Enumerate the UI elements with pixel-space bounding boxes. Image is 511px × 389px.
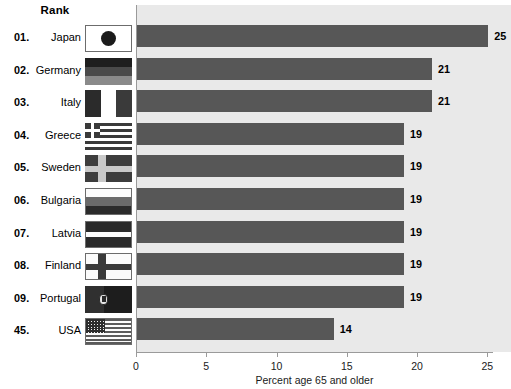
x-axis-tick-label: 15 — [341, 360, 353, 372]
greece-canton — [85, 123, 100, 138]
country-label: Greece — [14, 129, 81, 141]
x-axis-tick-label: 0 — [133, 360, 139, 372]
portugal-flag — [85, 286, 132, 313]
bar — [137, 90, 432, 112]
germany-flag — [85, 58, 132, 85]
table-row: 02.Germany — [0, 56, 136, 87]
country-label: Latvia — [14, 227, 81, 239]
japan-flag — [85, 25, 132, 52]
bar-value-label: 25 — [494, 25, 506, 47]
country-label: Sweden — [14, 161, 81, 173]
bar-value-label: 21 — [438, 58, 450, 80]
portugal-emblem — [99, 294, 108, 305]
country-label: Japan — [14, 31, 81, 43]
country-label: Italy — [14, 96, 81, 108]
bar — [137, 188, 404, 210]
table-row: 01.Japan — [0, 23, 136, 54]
x-axis-tick-label: 10 — [271, 360, 283, 372]
bar — [137, 25, 488, 47]
x-axis-tick — [277, 352, 278, 357]
bar — [137, 123, 404, 145]
bar-value-label: 21 — [438, 90, 450, 112]
table-row: 06.Bulgaria — [0, 186, 136, 217]
x-axis-tick — [347, 352, 348, 357]
country-label: Bulgaria — [14, 194, 81, 206]
japan-disc — [101, 31, 116, 46]
x-axis-tick — [487, 352, 488, 357]
bar — [137, 253, 404, 275]
x-axis-tick-label: 25 — [481, 360, 493, 372]
country-label: Germany — [14, 64, 81, 76]
usa-flag — [85, 318, 132, 345]
sweden-flag — [85, 155, 132, 182]
bar — [137, 286, 404, 308]
table-row: 04.Greece — [0, 121, 136, 152]
x-axis-tick — [417, 352, 418, 357]
x-axis-line — [136, 352, 493, 353]
bulgaria-flag — [85, 188, 132, 215]
greece-flag — [85, 123, 132, 150]
table-row: 07.Latvia — [0, 219, 136, 250]
italy-flag — [85, 90, 132, 117]
bar-value-label: 19 — [410, 188, 422, 210]
bar-value-label: 19 — [410, 155, 422, 177]
table-row: 09.Portugal — [0, 284, 136, 315]
finland-flag — [85, 253, 132, 280]
table-row: 05.Sweden — [0, 153, 136, 184]
bar — [137, 318, 334, 340]
rank-column-header: Rank — [28, 4, 82, 16]
x-axis-title: Percent age 65 and older — [136, 374, 493, 386]
country-label: USA — [14, 324, 81, 336]
bar-value-label: 14 — [340, 318, 352, 340]
x-axis-tick-label: 5 — [203, 360, 209, 372]
x-axis-tick-label: 20 — [411, 360, 423, 372]
table-row: 08.Finland — [0, 251, 136, 282]
bar — [137, 221, 404, 243]
bar-value-label: 19 — [410, 123, 422, 145]
chart-figure: Rank 01.Japan02.Germany03.Italy04.Greece… — [0, 0, 511, 389]
country-label: Finland — [14, 259, 81, 271]
bar-value-label: 19 — [410, 286, 422, 308]
bar — [137, 155, 404, 177]
x-axis-tick — [136, 352, 137, 357]
table-row: 45.USA — [0, 316, 136, 347]
latvia-flag — [85, 221, 132, 248]
bar — [137, 58, 432, 80]
country-label: Portugal — [14, 292, 81, 304]
usa-canton — [86, 319, 105, 333]
table-row: 03.Italy — [0, 88, 136, 119]
bar-value-label: 19 — [410, 221, 422, 243]
x-axis-tick — [206, 352, 207, 357]
bar-value-label: 19 — [410, 253, 422, 275]
